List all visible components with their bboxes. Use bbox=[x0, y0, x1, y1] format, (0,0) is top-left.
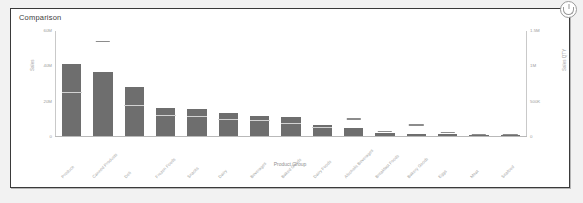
bar[interactable] bbox=[438, 134, 457, 136]
bar[interactable] bbox=[219, 113, 238, 136]
bar[interactable] bbox=[93, 72, 112, 136]
bar[interactable] bbox=[375, 133, 394, 136]
bar[interactable] bbox=[156, 108, 175, 136]
info-circle-arc bbox=[563, 7, 574, 15]
page-title: Comparison bbox=[19, 13, 61, 22]
bar[interactable] bbox=[125, 87, 144, 136]
y-axis-right-tick: 0 bbox=[530, 135, 532, 139]
bar[interactable] bbox=[313, 125, 332, 136]
bar-slot[interactable] bbox=[495, 31, 526, 136]
y-axis-right-title: Sales QTY bbox=[562, 49, 567, 71]
x-axis-tick-label: Eggs bbox=[438, 169, 448, 179]
bar-slot[interactable] bbox=[401, 31, 432, 136]
x-axis-line bbox=[55, 136, 527, 137]
bar-slot[interactable] bbox=[369, 31, 400, 136]
bar[interactable] bbox=[407, 134, 426, 136]
bar-slot[interactable] bbox=[338, 31, 369, 136]
info-circle-icon[interactable] bbox=[560, 1, 577, 18]
bar-slot[interactable] bbox=[56, 31, 87, 136]
bar[interactable] bbox=[501, 135, 520, 136]
plot-area: 020M40M60M 0500K1M1.5M bbox=[55, 31, 527, 137]
qty-reference-marker bbox=[156, 115, 176, 116]
bar-slot[interactable] bbox=[87, 31, 118, 136]
y-axis-left-tick: 40M bbox=[43, 64, 52, 68]
bar[interactable] bbox=[344, 128, 363, 136]
bar[interactable] bbox=[281, 117, 300, 136]
qty-reference-marker bbox=[346, 118, 360, 119]
qty-reference-marker bbox=[62, 92, 82, 93]
qty-reference-marker bbox=[440, 132, 454, 133]
qty-reference-marker bbox=[281, 123, 301, 124]
bar-slot[interactable] bbox=[181, 31, 212, 136]
y-axis-right-line bbox=[526, 31, 527, 137]
bar-slot[interactable] bbox=[307, 31, 338, 136]
bar-slot[interactable] bbox=[119, 31, 150, 136]
bar-slot[interactable] bbox=[150, 31, 181, 136]
x-axis-tick-label: Dairy bbox=[218, 169, 228, 179]
bar-series-container bbox=[56, 31, 526, 136]
qty-reference-marker bbox=[312, 127, 332, 128]
qty-reference-marker bbox=[218, 119, 238, 120]
bar-slot[interactable] bbox=[463, 31, 494, 136]
y-axis-left-tick: 60M bbox=[43, 29, 52, 33]
y-axis-left-tick: 20M bbox=[43, 100, 52, 104]
x-axis-tick-label: Meat bbox=[470, 169, 480, 179]
bar-slot[interactable] bbox=[213, 31, 244, 136]
qty-reference-marker bbox=[409, 124, 423, 125]
qty-reference-marker bbox=[124, 105, 144, 106]
bar[interactable] bbox=[469, 135, 488, 136]
x-axis-tick-label: Deli bbox=[124, 171, 132, 179]
qty-reference-marker bbox=[96, 41, 110, 42]
qty-reference-marker bbox=[378, 131, 392, 132]
bar-slot[interactable] bbox=[244, 31, 275, 136]
y-axis-right-tick: 1.5M bbox=[530, 29, 540, 33]
y-axis-left-title: Sales bbox=[30, 60, 35, 72]
y-axis-left-tick: 0 bbox=[50, 135, 52, 139]
bar[interactable] bbox=[187, 109, 206, 136]
comparison-chart-widget[interactable]: Comparison Sales Sales QTY 020M40M60M 05… bbox=[10, 8, 570, 188]
bar-slot[interactable] bbox=[275, 31, 306, 136]
qty-reference-marker bbox=[187, 116, 207, 117]
x-axis-ticks: ProduceCanned ProductsDeliFrozen FoodsSn… bbox=[55, 139, 527, 179]
y-axis-right-tick: 500K bbox=[530, 100, 540, 104]
x-axis-title: Product Group bbox=[11, 161, 569, 167]
bar[interactable] bbox=[62, 64, 81, 136]
y-axis-right-tick: 1M bbox=[530, 64, 536, 68]
bar[interactable] bbox=[250, 116, 269, 136]
qty-reference-marker bbox=[250, 120, 270, 121]
bar-slot[interactable] bbox=[432, 31, 463, 136]
x-axis-tick-label: Snacks bbox=[187, 166, 200, 179]
